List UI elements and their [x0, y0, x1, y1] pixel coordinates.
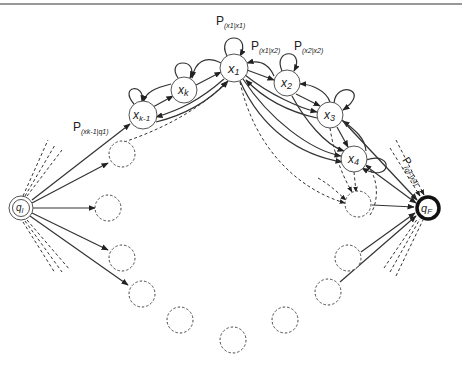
node-xk: xk: [171, 77, 197, 103]
node-xk-1: xk-1: [129, 101, 157, 129]
node-q-final: qF: [417, 197, 439, 219]
dashed-edges: [23, 82, 424, 276]
core-edges: [129, 38, 417, 203]
node-x1: x1: [220, 54, 248, 82]
node-x3: x3: [317, 102, 343, 128]
label-p-start-xk-1: P(xk-1|q1): [73, 120, 109, 136]
label-p-x1-x1: P(x1|x1): [216, 14, 245, 30]
node-x4: x4: [341, 146, 367, 172]
hmm-state-diagram: x1 xk xk-1 x2 x3 x4 qI qF P(x1|x1) P(x1|…: [0, 0, 468, 372]
node-x2: x2: [274, 70, 300, 96]
node-q-start: qI: [9, 196, 33, 220]
label-p-x1-x2: P(x1|x2): [251, 39, 280, 55]
label-p-x2-x2: P(x2|x2): [294, 39, 323, 55]
placeholder-nodes: [95, 141, 371, 353]
label-p-x4-final: P(qF|x4): [398, 155, 426, 188]
